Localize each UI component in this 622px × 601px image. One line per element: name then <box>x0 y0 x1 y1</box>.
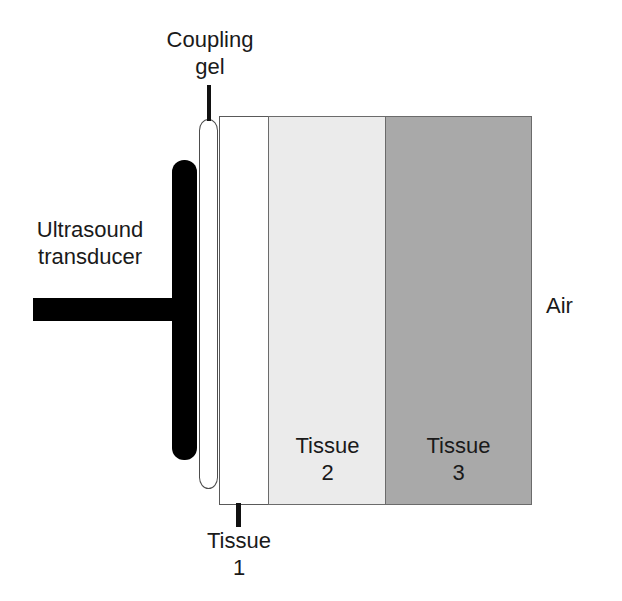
tissue-1-leader-line <box>236 503 241 527</box>
tissue-2-label: Tissue 2 <box>268 432 387 486</box>
transducer-element-bar <box>172 160 197 460</box>
tissue-3-label: Tissue 3 <box>385 432 532 486</box>
coupling-gel-shape <box>199 119 218 489</box>
tissue-1-label: Tissue 1 <box>172 527 306 581</box>
tissue-1-region <box>219 116 269 505</box>
coupling-gel-leader-line <box>207 85 211 121</box>
ultrasound-transducer-label: Ultrasound transducer <box>0 216 180 270</box>
air-label: Air <box>546 292 606 319</box>
coupling-gel-label: Coupling gel <box>104 26 316 80</box>
transducer-stem <box>33 298 181 321</box>
ultrasound-layers-diagram: Coupling gel Ultrasound transducer Tissu… <box>0 0 622 601</box>
